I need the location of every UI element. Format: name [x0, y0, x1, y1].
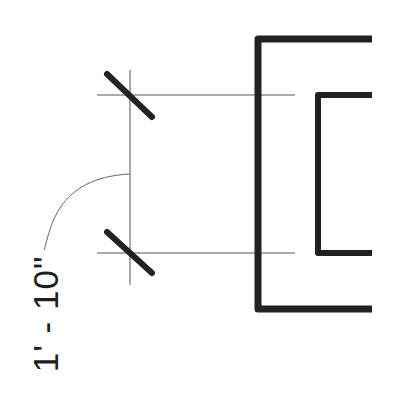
inner-wall-profile	[318, 95, 372, 253]
dimension-label: 1' - 10"	[28, 256, 63, 373]
